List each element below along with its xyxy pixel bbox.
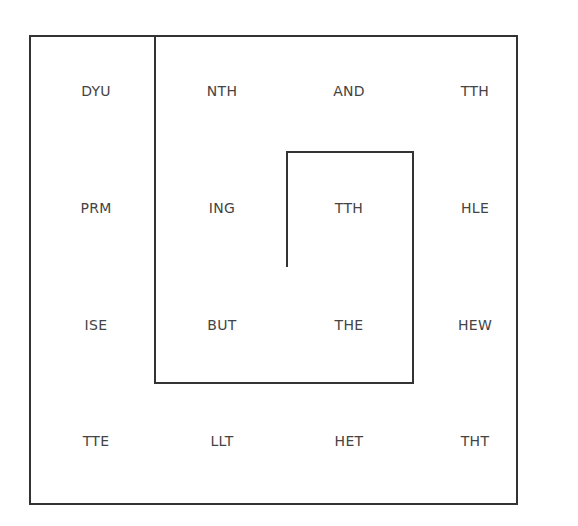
spiral-segment-4	[286, 151, 414, 153]
grid-cell-r1c4: TTH	[425, 83, 525, 99]
grid-cell-r1c2: NTH	[172, 83, 272, 99]
spiral-segment-3	[412, 151, 414, 384]
outer-border-left	[29, 35, 31, 505]
grid-cell-r1c3: AND	[299, 83, 399, 99]
grid-cell-r4c4: THT	[425, 433, 525, 449]
grid-cell-r3c3: THE	[299, 317, 399, 333]
grid-cell-r2c1: PRM	[46, 200, 146, 216]
grid-cell-r2c2: ING	[172, 200, 272, 216]
spiral-grid-diagram: DYU NTH AND TTH PRM ING TTH HLE ISE BUT …	[0, 0, 578, 526]
grid-cell-r2c3: TTH	[299, 200, 399, 216]
outer-border-top	[29, 35, 518, 37]
grid-cell-r3c2: BUT	[172, 317, 272, 333]
grid-cell-r1c1: DYU	[46, 83, 146, 99]
outer-border-bottom	[29, 503, 518, 505]
grid-cell-r3c4: HEW	[425, 317, 525, 333]
grid-cell-r4c2: LLT	[172, 433, 272, 449]
spiral-segment-1	[154, 37, 156, 384]
grid-cell-r2c4: HLE	[425, 200, 525, 216]
spiral-segment-2	[154, 382, 414, 384]
spiral-segment-5	[286, 151, 288, 267]
grid-cell-r4c3: HET	[299, 433, 399, 449]
grid-cell-r4c1: TTE	[46, 433, 146, 449]
grid-cell-r3c1: ISE	[46, 317, 146, 333]
